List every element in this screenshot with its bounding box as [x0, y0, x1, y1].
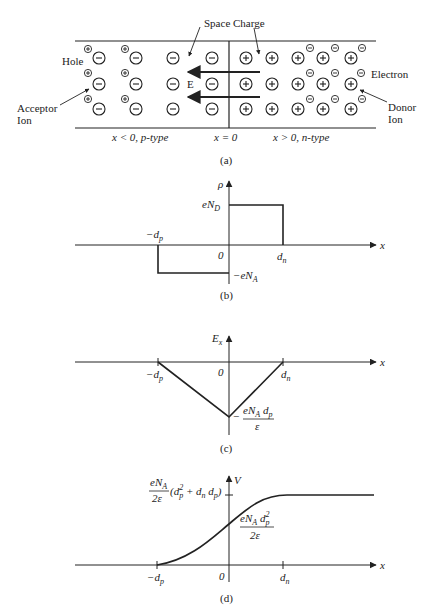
rho-axis-label: ρ	[217, 178, 223, 190]
acceptor-ion-label-line2: Ion	[17, 114, 32, 126]
svg-text:eNA: eNA	[150, 476, 167, 491]
p-side-charges	[84, 45, 218, 115]
svg-text:eNA dp2: eNA dp2	[240, 510, 269, 527]
x-axis-label: x	[379, 356, 385, 368]
caption-a: (a)	[220, 154, 233, 167]
hole-label: Hole	[62, 55, 84, 67]
svg-text:−: −	[233, 410, 239, 422]
caption-d: (d)	[220, 592, 233, 605]
eND-label: eND	[202, 198, 220, 213]
n-side-charges	[240, 44, 366, 115]
dn-label: dn	[280, 571, 290, 586]
neg-dp-label: −dp	[146, 228, 163, 243]
junction-position-label: x = 0	[213, 131, 238, 143]
dn-label: dn	[277, 250, 287, 265]
svg-text:2ε: 2ε	[152, 492, 163, 504]
positive-charge-block	[229, 205, 283, 245]
neg-dp-label: −dp	[146, 368, 163, 383]
donor-ion-label-line2: Ion	[388, 113, 403, 125]
svg-text:(dp2 + dn dp): (dp2 + dn dp)	[170, 483, 222, 500]
origin-label: 0	[218, 249, 224, 261]
donor-ion-label-line1: Donor	[388, 101, 416, 113]
caption-b: (b)	[220, 289, 233, 302]
acceptor-ion-label-line1: Acceptor	[17, 102, 58, 114]
caption-c: (c)	[220, 442, 233, 455]
pn-junction-figure: E Space Charge Hole Acceptor Ion Electro…	[0, 0, 424, 613]
field-label: E	[187, 78, 194, 90]
svg-text:2ε: 2ε	[250, 529, 261, 541]
vmax-label: eNA 2ε (dp2 + dn dp)	[149, 476, 222, 504]
neg-eNA-label: −eNA	[233, 269, 258, 284]
potential-curve	[157, 495, 374, 565]
min-field-label: − eNA dp ε	[233, 404, 274, 432]
Ex-axis-label: Ex	[211, 332, 223, 347]
neg-dp-label: −dp	[147, 571, 164, 586]
dn-label: dn	[281, 368, 291, 383]
x-axis-label: x	[379, 239, 385, 251]
panel-a-junction-diagram: E Space Charge Hole Acceptor Ion Electro…	[17, 17, 416, 167]
svg-text:eNA dp: eNA dp	[243, 404, 272, 419]
panel-b-charge-density: ρ x 0 −dp dn eND −eNA (b)	[75, 178, 385, 302]
origin-label: 0	[219, 570, 225, 582]
v-at-origin-label: eNA dp2 2ε	[240, 510, 274, 541]
panel-d-potential: V x 0 −dp dn eNA 2ε (dp2 + dn dp) eNA dp…	[75, 474, 385, 605]
electron-label: Electron	[371, 68, 409, 80]
n-type-region-label: x > 0, n-type	[272, 131, 329, 143]
p-type-region-label: x < 0, p-type	[111, 131, 168, 143]
origin-label: 0	[218, 366, 224, 378]
panel-c-electric-field: Ex x 0 −dp dn − eNA dp ε (c)	[75, 332, 385, 455]
space-charge-label: Space Charge	[204, 17, 265, 29]
x-axis-label: x	[379, 559, 385, 571]
svg-text:ε: ε	[255, 420, 260, 432]
V-axis-label: V	[234, 474, 242, 486]
